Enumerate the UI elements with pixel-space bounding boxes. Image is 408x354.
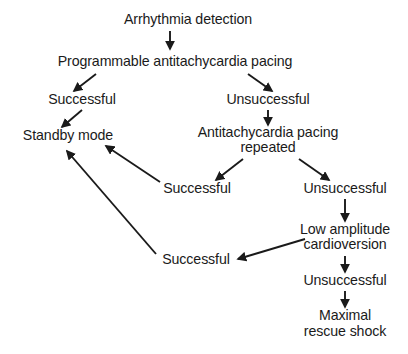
node-successful-2: Successful — [163, 181, 231, 197]
edge-repeated-to-successful2 — [216, 159, 243, 180]
node-unsuccessful-3: Unsuccessful — [303, 273, 386, 289]
edge-successful3-to-standby — [67, 151, 156, 254]
node-unsuccessful-2: Unsuccessful — [303, 181, 386, 197]
edge-successful1-to-standby — [62, 110, 82, 127]
node-programmable-antitachycardia-pacing: Programmable antitachycardia pacing — [58, 54, 293, 70]
edge-lowamp-to-successful3 — [238, 239, 305, 259]
node-unsuccessful-1: Unsuccessful — [226, 92, 309, 108]
edge-atp-to-successful1 — [74, 74, 96, 91]
node-antitachycardia-pacing-repeated-line2: repeated — [240, 140, 295, 155]
edge-atp-to-unsuccessful1 — [248, 74, 272, 91]
node-maximal-rescue-shock-line2: rescue shock — [304, 324, 386, 339]
node-low-amplitude-cardioversion-line2: cardioversion — [303, 237, 386, 252]
edge-successful2-to-standby — [106, 146, 160, 182]
node-successful-1: Successful — [48, 92, 116, 108]
node-maximal-rescue-shock-line1: Maximal — [319, 308, 371, 323]
node-standby-mode: Standby mode — [23, 128, 113, 144]
flowchart-diagram: Arrhythmia detection Programmable antita… — [0, 0, 408, 354]
node-successful-3: Successful — [162, 252, 230, 268]
node-arrhythmia-detection: Arrhythmia detection — [124, 12, 252, 28]
edge-repeated-to-unsuccessful2 — [299, 159, 329, 180]
